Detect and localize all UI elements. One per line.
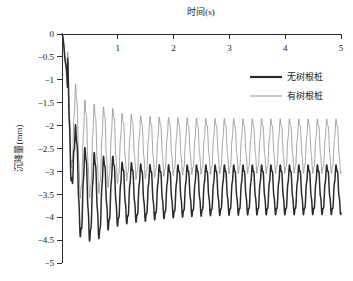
x-tick-label: 4	[283, 43, 288, 53]
legend-label-you-shu-gen-zhuang: 有树根桩	[287, 90, 323, 101]
y-tick-label: −4.5	[38, 235, 55, 245]
settlement-time-chart: 12345 0−0.5−1−1.5−2−2.5−3−3.5−4−4.5−5 时间…	[0, 0, 353, 281]
x-tick-label: 1	[116, 43, 121, 53]
series-line-you-shu-gen-zhuang	[62, 34, 341, 198]
x-axis-ticks: 12345	[62, 34, 344, 53]
y-tick-label: −4	[44, 212, 54, 222]
series-line-wu-shu-gen-zhuang	[62, 34, 341, 241]
plot-axes	[62, 34, 341, 263]
y-tick-label: −3.5	[38, 190, 55, 200]
x-tick-label: 3	[227, 43, 232, 53]
x-axis-title: 时间(s)	[187, 6, 215, 17]
y-axis-ticks: 0−0.5−1−1.5−2−2.5−3−3.5−4−4.5−5	[38, 29, 62, 268]
y-tick-label: −1.5	[38, 98, 55, 108]
y-tick-label: −2	[44, 121, 54, 131]
y-tick-label: −1	[44, 75, 54, 85]
y-tick-label: 0	[50, 29, 55, 39]
x-tick-label: 5	[339, 43, 344, 53]
y-tick-label: −5	[44, 258, 54, 268]
x-tick-label: 2	[171, 43, 176, 53]
legend: 无树根桩 有树根桩	[250, 71, 323, 101]
y-tick-label: −0.5	[38, 52, 55, 62]
y-tick-label: −2.5	[38, 144, 55, 154]
y-axis-title: 沉降量(mm)	[13, 125, 24, 172]
y-tick-label: −3	[44, 167, 54, 177]
series-group	[62, 34, 341, 241]
chart-figure: 12345 0−0.5−1−1.5−2−2.5−3−3.5−4−4.5−5 时间…	[0, 0, 353, 281]
legend-label-wu-shu-gen-zhuang: 无树根桩	[287, 71, 323, 82]
